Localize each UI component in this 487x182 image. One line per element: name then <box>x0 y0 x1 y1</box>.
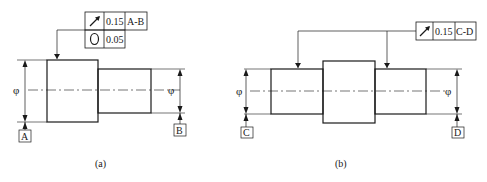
datum-label-a: A <box>21 131 29 142</box>
figure-a <box>17 12 186 142</box>
fcf-b-tolerance-1: 0.15 <box>435 26 453 37</box>
large-cylinder-a <box>47 60 98 122</box>
figure-b <box>241 22 476 138</box>
circularity-icon <box>91 34 99 45</box>
diameter-symbol-left-b: φ <box>236 85 242 97</box>
circular-runout-icon <box>420 26 430 36</box>
datum-label-b: B <box>176 125 183 136</box>
datum-label-c: C <box>243 127 250 138</box>
small-cylinder-a <box>98 69 151 113</box>
caption-b: (b) <box>335 158 347 170</box>
circular-runout-icon <box>90 16 100 26</box>
diameter-symbol-left-a: φ <box>13 84 19 96</box>
datum-label-d: D <box>454 127 461 138</box>
fcf-a-tolerance-2: 0.05 <box>106 34 124 45</box>
small-cylinder-right-b <box>375 69 426 114</box>
caption-a: (a) <box>95 158 106 170</box>
leader-line-b <box>298 31 416 68</box>
large-cylinder-b <box>323 61 375 123</box>
fcf-b-datum-1: C-D <box>456 26 473 37</box>
diameter-symbol-right-a: φ <box>168 84 174 96</box>
drawing-canvas: 0.15 A-B 0.05 φ φ A B (a) <box>0 0 487 182</box>
leader-line-a <box>57 30 85 59</box>
fcf-a-datum-1: A-B <box>127 16 145 27</box>
diameter-symbol-right-b: φ <box>445 85 451 97</box>
fcf-a-tolerance-1: 0.15 <box>106 16 124 27</box>
small-cylinder-left-b <box>271 69 323 114</box>
